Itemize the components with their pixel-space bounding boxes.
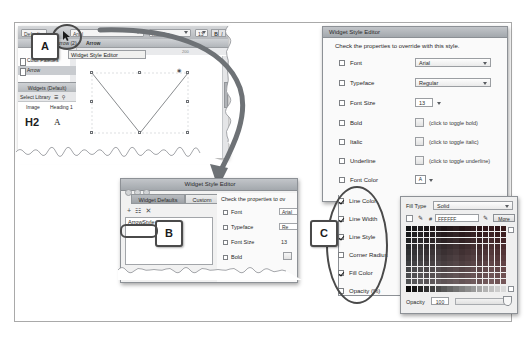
color-swatch[interactable] xyxy=(465,267,470,272)
fill-type-chevron-down-icon[interactable] xyxy=(505,205,509,208)
fill-type-dropdown[interactable]: Solid xyxy=(433,201,513,210)
color-swatch[interactable] xyxy=(501,273,506,278)
opacity-slider-knob[interactable] xyxy=(503,296,512,306)
widget-sample-a[interactable]: A xyxy=(54,117,61,127)
color-swatch[interactable] xyxy=(501,267,506,272)
color-swatch[interactable] xyxy=(418,255,423,260)
color-swatch[interactable] xyxy=(465,232,470,237)
color-swatch[interactable] xyxy=(495,244,500,249)
color-swatch[interactable] xyxy=(436,249,441,254)
color-swatch[interactable] xyxy=(406,244,411,249)
color-swatch[interactable] xyxy=(441,267,446,272)
color-swatch[interactable] xyxy=(424,255,429,260)
color-swatch[interactable] xyxy=(483,261,488,266)
checkbox[interactable] xyxy=(339,60,345,66)
color-swatch[interactable] xyxy=(465,244,470,249)
typeface-dropdown[interactable]: Regular xyxy=(415,78,491,87)
color-swatch[interactable] xyxy=(441,261,446,266)
color-swatch[interactable] xyxy=(489,244,494,249)
property-font[interactable]: Font xyxy=(339,60,362,66)
property-typeface[interactable]: Typeface xyxy=(339,80,374,86)
hex-input[interactable]: FFFFFF xyxy=(435,214,479,222)
color-swatch[interactable] xyxy=(406,261,411,266)
color-swatch[interactable] xyxy=(436,279,441,284)
color-swatch[interactable] xyxy=(453,279,458,284)
color-swatch[interactable] xyxy=(489,255,494,260)
color-swatch[interactable] xyxy=(430,238,435,243)
color-swatch[interactable] xyxy=(459,226,464,231)
color-swatch[interactable] xyxy=(447,238,452,243)
color-swatch[interactable] xyxy=(477,267,482,272)
color-swatch[interactable] xyxy=(418,279,423,284)
font-color-swatch[interactable]: A xyxy=(415,175,426,184)
color-swatch[interactable] xyxy=(430,273,435,278)
color-swatch[interactable] xyxy=(430,244,435,249)
color-swatch[interactable] xyxy=(489,267,494,272)
property-bold[interactable]: Bold xyxy=(339,120,362,126)
checkbox[interactable] xyxy=(223,225,228,230)
pencil-icon[interactable]: ✎ xyxy=(483,214,488,221)
color-swatch[interactable] xyxy=(471,232,476,237)
color-swatch[interactable] xyxy=(483,249,488,254)
font-size-stepper[interactable]: 13 xyxy=(415,98,433,107)
delete-style-icon[interactable]: ✕ xyxy=(145,207,155,214)
middle-property-font[interactable]: Font xyxy=(223,209,242,215)
color-swatch[interactable] xyxy=(447,261,452,266)
color-swatch[interactable] xyxy=(489,226,494,231)
grayscale-swatch[interactable] xyxy=(418,286,423,292)
color-swatch[interactable] xyxy=(436,226,441,231)
color-swatch[interactable] xyxy=(465,279,470,284)
color-swatch[interactable] xyxy=(412,255,417,260)
color-swatch[interactable] xyxy=(406,279,411,284)
color-swatch[interactable] xyxy=(495,226,500,231)
color-swatch[interactable] xyxy=(424,232,429,237)
checkbox[interactable] xyxy=(223,255,228,260)
color-swatch[interactable] xyxy=(441,249,446,254)
grayscale-swatch[interactable] xyxy=(447,286,452,292)
color-swatch[interactable] xyxy=(489,273,494,278)
color-swatch[interactable] xyxy=(501,238,506,243)
color-swatch[interactable] xyxy=(477,238,482,243)
color-swatch[interactable] xyxy=(412,249,417,254)
color-swatch[interactable] xyxy=(412,238,417,243)
style-list-toolbar[interactable]: +☷✕ xyxy=(127,207,155,215)
color-swatch[interactable] xyxy=(441,226,446,231)
middle-font-value[interactable]: Arial xyxy=(279,208,298,215)
color-swatch[interactable] xyxy=(471,261,476,266)
color-swatch[interactable] xyxy=(447,232,452,237)
color-swatch[interactable] xyxy=(459,232,464,237)
color-swatch[interactable] xyxy=(418,267,423,272)
color-swatch[interactable] xyxy=(424,273,429,278)
middle-property-bold[interactable]: Bold xyxy=(223,254,242,260)
color-swatch[interactable] xyxy=(483,244,488,249)
color-swatch[interactable] xyxy=(436,232,441,237)
color-swatch[interactable] xyxy=(447,267,452,272)
color-swatch[interactable] xyxy=(459,267,464,272)
grayscale-swatch[interactable] xyxy=(501,286,506,292)
middle-bold-toggle[interactable] xyxy=(283,252,292,260)
color-swatch[interactable] xyxy=(441,238,446,243)
color-swatch[interactable] xyxy=(436,267,441,272)
color-swatch[interactable] xyxy=(477,232,482,237)
color-swatch[interactable] xyxy=(465,255,470,260)
color-swatch[interactable] xyxy=(495,249,500,254)
color-swatch[interactable] xyxy=(412,232,417,237)
typeface-chevron-down-icon[interactable] xyxy=(483,82,487,85)
color-swatch[interactable] xyxy=(501,261,506,266)
tab-custom[interactable]: Custom xyxy=(185,194,219,204)
color-swatch[interactable] xyxy=(495,255,500,260)
color-swatch[interactable] xyxy=(424,226,429,231)
color-swatch[interactable] xyxy=(430,226,435,231)
color-swatch[interactable] xyxy=(495,232,500,237)
font-color-chevron-down-icon[interactable] xyxy=(429,179,433,182)
color-swatch[interactable] xyxy=(412,267,417,272)
color-swatch[interactable] xyxy=(406,249,411,254)
add-style-icon[interactable]: + xyxy=(127,207,135,214)
color-swatch[interactable] xyxy=(453,226,458,231)
middle-property-font-size[interactable]: Font Size xyxy=(223,239,254,245)
color-swatch[interactable] xyxy=(406,226,411,231)
color-swatch[interactable] xyxy=(430,249,435,254)
color-swatch[interactable] xyxy=(465,261,470,266)
color-swatch[interactable] xyxy=(430,261,435,266)
color-swatch[interactable] xyxy=(501,226,506,231)
